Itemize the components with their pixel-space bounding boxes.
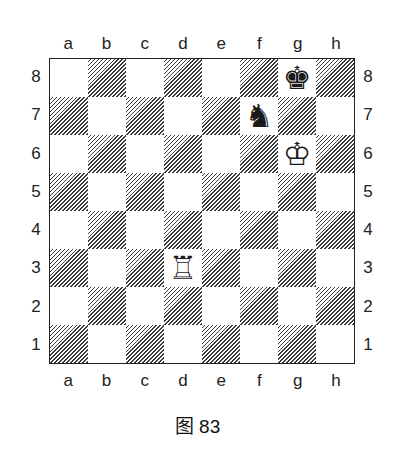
file-label-g: g	[288, 34, 308, 54]
file-label-f: f	[249, 371, 269, 391]
square-e6	[202, 135, 240, 173]
square-b8	[88, 59, 126, 97]
rank-label-1: 1	[358, 335, 378, 355]
chess-board: ♚♞♔♖	[49, 58, 355, 364]
square-f1	[240, 325, 278, 363]
square-h6	[316, 135, 354, 173]
square-d8	[164, 59, 202, 97]
square-f2	[240, 287, 278, 325]
file-label-g: g	[288, 371, 308, 391]
file-label-e: e	[211, 34, 231, 54]
square-a8	[50, 59, 88, 97]
square-c5	[126, 173, 164, 211]
rank-label-8: 8	[26, 67, 46, 87]
file-label-c: c	[135, 34, 155, 54]
rank-label-3: 3	[26, 258, 46, 278]
square-g7	[278, 97, 316, 135]
square-c2	[126, 287, 164, 325]
square-f5	[240, 173, 278, 211]
square-g5	[278, 173, 316, 211]
square-b4	[88, 211, 126, 249]
rank-label-3: 3	[358, 258, 378, 278]
rank-label-2: 2	[358, 297, 378, 317]
square-d5	[164, 173, 202, 211]
square-a2	[50, 287, 88, 325]
square-g4	[278, 211, 316, 249]
square-g1	[278, 325, 316, 363]
square-e7	[202, 97, 240, 135]
square-h1	[316, 325, 354, 363]
square-e1	[202, 325, 240, 363]
white-rook-icon: ♖	[169, 252, 198, 284]
file-label-f: f	[249, 34, 269, 54]
square-g6: ♔	[278, 135, 316, 173]
square-h8	[316, 59, 354, 97]
rank-label-6: 6	[358, 144, 378, 164]
file-label-a: a	[58, 371, 78, 391]
square-c1	[126, 325, 164, 363]
square-e5	[202, 173, 240, 211]
square-a3	[50, 249, 88, 287]
black-knight-icon: ♞	[245, 100, 274, 132]
file-label-h: h	[326, 371, 346, 391]
file-label-b: b	[96, 371, 116, 391]
file-label-d: d	[173, 34, 193, 54]
square-d4	[164, 211, 202, 249]
square-e2	[202, 287, 240, 325]
square-d7	[164, 97, 202, 135]
square-a1	[50, 325, 88, 363]
square-d1	[164, 325, 202, 363]
square-d3: ♖	[164, 249, 202, 287]
square-e4	[202, 211, 240, 249]
file-label-a: a	[58, 34, 78, 54]
white-king-icon: ♔	[283, 138, 312, 170]
square-g2	[278, 287, 316, 325]
square-h4	[316, 211, 354, 249]
square-f6	[240, 135, 278, 173]
rank-label-7: 7	[26, 105, 46, 125]
square-b3	[88, 249, 126, 287]
square-d6	[164, 135, 202, 173]
square-b7	[88, 97, 126, 135]
file-label-d: d	[173, 371, 193, 391]
square-c4	[126, 211, 164, 249]
square-f3	[240, 249, 278, 287]
square-a4	[50, 211, 88, 249]
square-g3	[278, 249, 316, 287]
file-label-e: e	[211, 371, 231, 391]
rank-label-5: 5	[358, 182, 378, 202]
black-king-icon: ♚	[283, 62, 312, 94]
rank-label-4: 4	[26, 220, 46, 240]
square-h2	[316, 287, 354, 325]
rank-label-8: 8	[358, 67, 378, 87]
square-b2	[88, 287, 126, 325]
square-h7	[316, 97, 354, 135]
square-c8	[126, 59, 164, 97]
square-b1	[88, 325, 126, 363]
rank-label-5: 5	[26, 182, 46, 202]
square-d2	[164, 287, 202, 325]
square-h5	[316, 173, 354, 211]
square-c3	[126, 249, 164, 287]
rank-label-4: 4	[358, 220, 378, 240]
file-label-b: b	[96, 34, 116, 54]
square-h3	[316, 249, 354, 287]
square-a5	[50, 173, 88, 211]
figure-caption: 图 83	[0, 411, 395, 438]
square-a6	[50, 135, 88, 173]
square-c7	[126, 97, 164, 135]
square-f7: ♞	[240, 97, 278, 135]
file-label-h: h	[326, 34, 346, 54]
rank-label-7: 7	[358, 105, 378, 125]
square-c6	[126, 135, 164, 173]
square-g8: ♚	[278, 59, 316, 97]
square-e3	[202, 249, 240, 287]
square-a7	[50, 97, 88, 135]
square-b5	[88, 173, 126, 211]
rank-label-1: 1	[26, 335, 46, 355]
file-label-c: c	[135, 371, 155, 391]
square-f8	[240, 59, 278, 97]
square-e8	[202, 59, 240, 97]
rank-label-6: 6	[26, 144, 46, 164]
rank-label-2: 2	[26, 297, 46, 317]
